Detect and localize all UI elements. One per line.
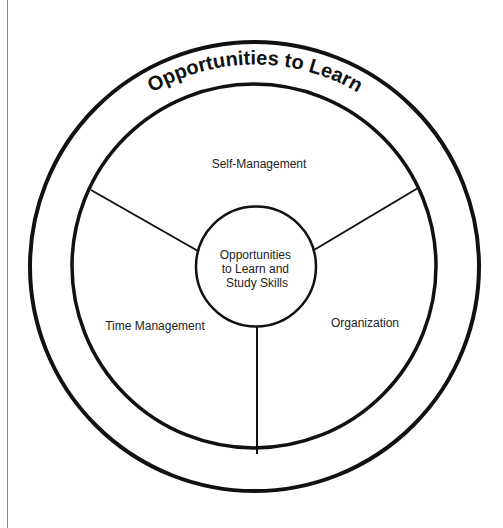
spoke-left [91, 190, 198, 251]
center-label-line-1: Opportunities [220, 248, 291, 262]
spoke-right [314, 188, 418, 250]
center-label: Opportunities to Learn and Study Skills [220, 248, 295, 290]
segment-label-time-management: Time Management [105, 319, 205, 333]
center-label-line-2: to Learn and [222, 262, 289, 276]
segment-label-self-management: Self-Management [212, 157, 307, 171]
segment-label-organization: Organization [331, 316, 399, 330]
concentric-wheel-diagram: Opportunities to Learn Opportunities to … [0, 0, 503, 528]
center-label-line-3: Study Skills [226, 276, 288, 290]
